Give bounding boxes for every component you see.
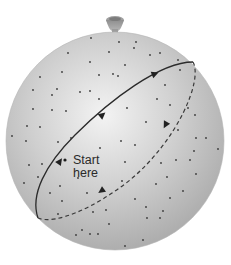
balloon-sphere — [6, 32, 224, 250]
start-label-line1: Start — [73, 153, 100, 167]
start-label-line2: here — [73, 166, 98, 180]
start-marker — [63, 158, 66, 161]
balloon-diagram: Start here — [0, 0, 231, 265]
